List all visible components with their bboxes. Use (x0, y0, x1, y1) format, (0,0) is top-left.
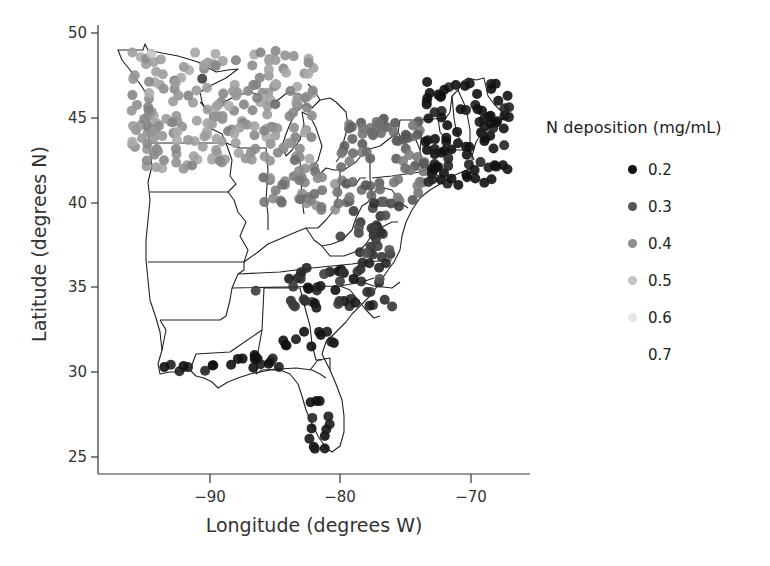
data-point (151, 67, 161, 77)
y-tick-25: 25 (68, 448, 87, 466)
data-point (373, 241, 383, 251)
data-point (250, 354, 260, 364)
data-point (358, 123, 368, 133)
data-point (266, 122, 276, 132)
data-point (504, 112, 514, 122)
data-point (271, 46, 281, 56)
data-point (368, 223, 378, 233)
data-point (382, 122, 392, 132)
data-point (472, 89, 482, 99)
data-point (247, 60, 257, 70)
data-point (300, 93, 310, 103)
data-point (404, 150, 414, 160)
data-point (430, 144, 440, 154)
data-point (316, 202, 326, 212)
data-point (226, 360, 236, 370)
data-point (349, 274, 359, 284)
data-point (347, 134, 357, 144)
data-point (306, 397, 316, 407)
data-point (168, 117, 178, 127)
data-point (304, 434, 314, 444)
data-point (213, 100, 223, 110)
data-point (208, 360, 218, 370)
x-axis (98, 474, 530, 483)
data-point (250, 144, 260, 154)
data-point (419, 158, 429, 168)
data-point (144, 88, 154, 98)
data-point (265, 156, 275, 166)
data-point (439, 146, 449, 156)
data-point (384, 245, 394, 255)
data-point (202, 118, 212, 128)
data-point (306, 341, 316, 351)
data-point (316, 330, 326, 340)
data-point (336, 232, 346, 242)
data-point (215, 156, 225, 166)
data-point (127, 90, 137, 100)
data-point (387, 301, 397, 311)
legend-dot-icon (628, 276, 637, 285)
data-point (380, 211, 390, 221)
legend-item-0.6: 0.6 (628, 299, 770, 336)
data-point (442, 120, 452, 130)
data-point (229, 129, 239, 139)
data-point (231, 138, 241, 148)
data-point (149, 127, 159, 137)
data-point (453, 138, 463, 148)
data-point (295, 144, 305, 154)
data-point (288, 282, 298, 292)
data-point (291, 334, 301, 344)
y-axis (91, 25, 98, 474)
data-point (311, 303, 321, 313)
data-point (273, 148, 283, 158)
data-point (451, 80, 461, 90)
legend-label: 0.7 (648, 346, 672, 364)
data-point (499, 140, 509, 150)
data-point (289, 123, 299, 133)
data-point (380, 295, 390, 305)
data-point (332, 187, 342, 197)
data-point (159, 84, 169, 94)
y-tick-45: 45 (68, 109, 87, 127)
x-tick-minus-80: −80 (324, 488, 356, 506)
data-point (127, 48, 137, 58)
data-point (190, 48, 200, 58)
data-point (189, 151, 199, 161)
data-point (179, 62, 189, 72)
data-point (211, 49, 221, 59)
y-tick-35: 35 (68, 278, 87, 296)
data-point (280, 50, 290, 60)
data-point (347, 122, 357, 132)
data-point (264, 56, 274, 66)
data-point (258, 173, 268, 183)
data-point (401, 130, 411, 140)
data-point (365, 301, 375, 311)
data-point (264, 359, 274, 369)
data-point (281, 68, 291, 78)
data-point (321, 425, 331, 435)
data-point (487, 174, 497, 184)
data-point (504, 102, 514, 112)
data-point (364, 258, 374, 268)
y-tick-40: 40 (68, 194, 87, 212)
data-point (354, 222, 364, 232)
data-point (291, 98, 301, 108)
data-point (277, 198, 287, 208)
legend-label: 0.4 (648, 235, 672, 253)
data-point (303, 282, 313, 292)
y-tick-30: 30 (68, 363, 87, 381)
data-point (299, 327, 309, 337)
data-point (439, 85, 449, 95)
data-point (231, 91, 241, 101)
data-point (197, 74, 207, 84)
data-point (139, 114, 149, 124)
data-point (462, 150, 472, 160)
data-point (130, 70, 140, 80)
data-point (290, 155, 300, 165)
data-point (234, 148, 244, 158)
data-point (179, 164, 189, 174)
legend-title: N deposition (mg/mL) (546, 118, 770, 137)
data-point (212, 134, 222, 144)
data-point (470, 165, 480, 175)
data-point (238, 354, 248, 364)
